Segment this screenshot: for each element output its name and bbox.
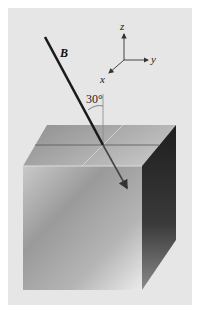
z-axis-label: z (119, 20, 125, 32)
x-axis-label: x (99, 73, 105, 85)
figure-canvas: 30° B z y x (0, 0, 199, 315)
vector-b-label: B (59, 46, 68, 60)
y-axis-label: y (150, 53, 156, 65)
angle-label: 30° (86, 92, 103, 106)
cube-front-face (23, 166, 142, 290)
figure-panel: 30° B z y x (0, 0, 199, 315)
